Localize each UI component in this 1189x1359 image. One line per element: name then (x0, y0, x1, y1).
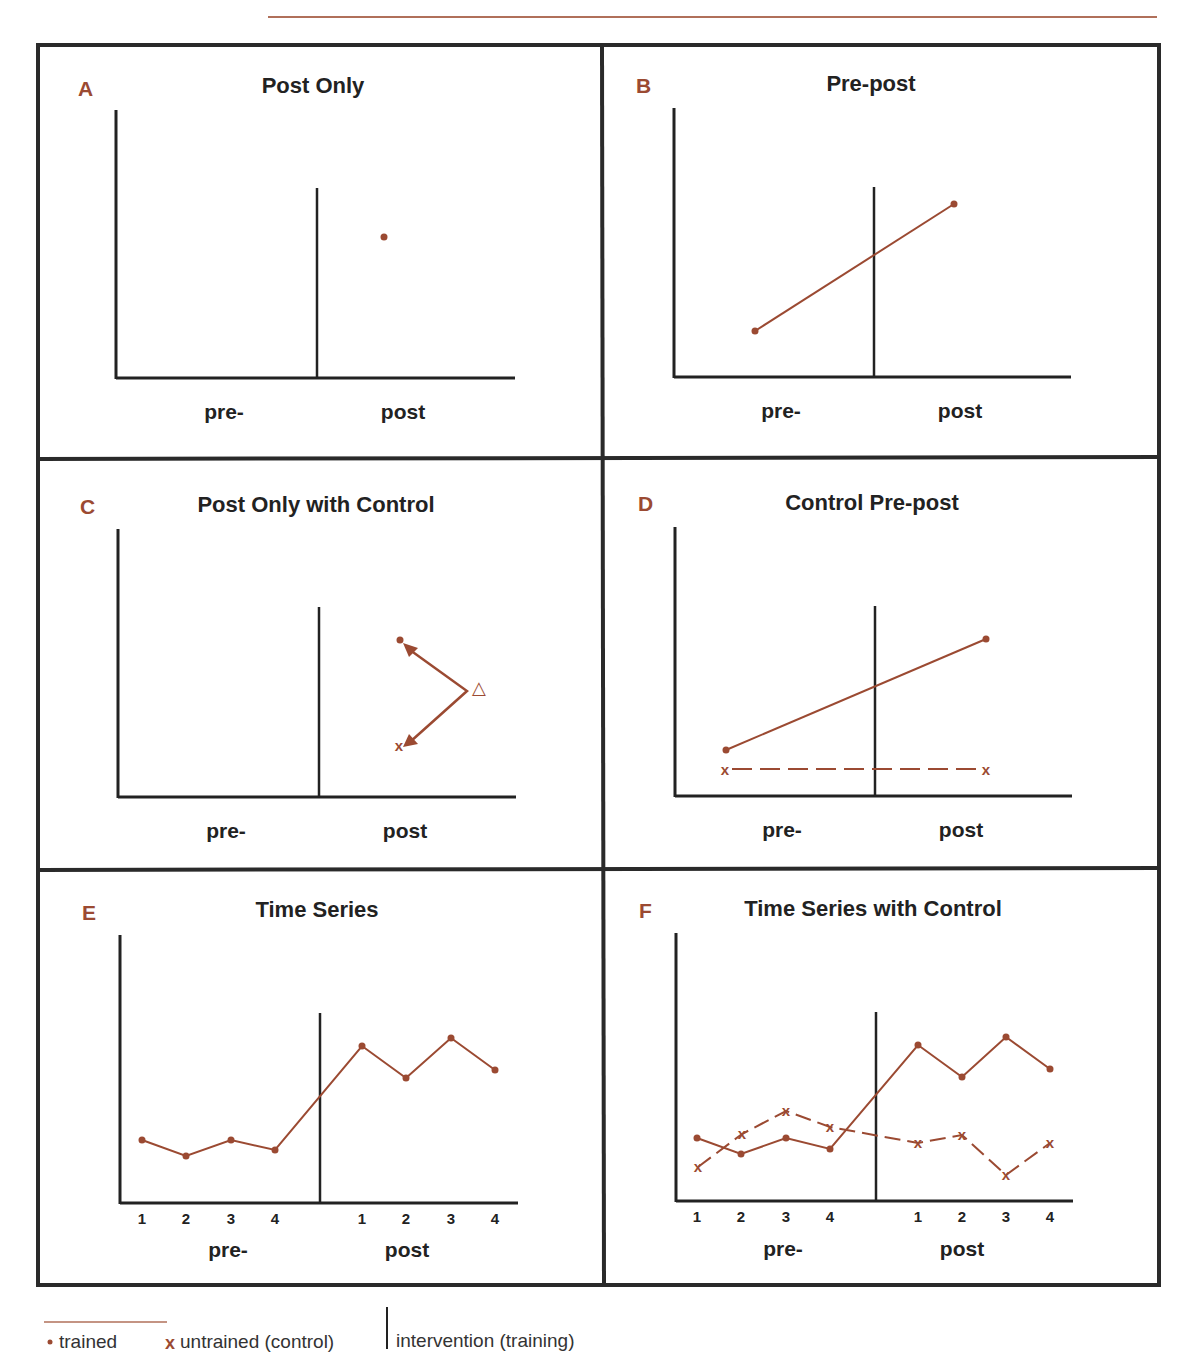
x-label-post: post (385, 1238, 429, 1261)
svg-text:3: 3 (1002, 1208, 1010, 1225)
svg-text:x: x (826, 1118, 835, 1135)
svg-text:1: 1 (358, 1210, 366, 1227)
svg-text:1: 1 (138, 1210, 146, 1227)
panel-title: Post Only (262, 73, 365, 98)
svg-text:4: 4 (491, 1210, 500, 1227)
x-label-pre: pre- (762, 818, 802, 841)
svg-text:2: 2 (402, 1210, 410, 1227)
panel-label: B (636, 74, 651, 97)
panel-c: C Post Only with Control x △ pre- post (80, 492, 516, 842)
trained-point (397, 637, 404, 644)
svg-text:x: x (958, 1126, 967, 1143)
legend-intervention: intervention (training) (396, 1330, 574, 1351)
legend-trained: trained (59, 1331, 117, 1352)
delta-symbol: △ (472, 677, 486, 698)
x-label-pre: pre- (206, 819, 246, 842)
svg-text:x: x (738, 1125, 747, 1142)
trained-series (697, 1037, 1050, 1154)
trained-point-pre (723, 747, 730, 754)
x-label-pre: pre- (763, 1237, 803, 1260)
trained-marker-icon (48, 1340, 53, 1345)
trained-line (726, 639, 986, 750)
svg-text:1: 1 (914, 1208, 922, 1225)
panel-title: Time Series with Control (744, 896, 1002, 921)
panel-a: A Post Only pre- post (78, 73, 515, 423)
legend: trained x untrained (control) interventi… (44, 1307, 574, 1353)
x-label-post: post (381, 400, 425, 423)
panel-b: B Pre-post pre- post (636, 71, 1071, 422)
svg-text:4: 4 (1046, 1208, 1055, 1225)
divider-vertical (602, 45, 604, 1285)
control-marker-pre: x (721, 761, 730, 778)
svg-text:x: x (782, 1102, 791, 1119)
trained-point-post (983, 636, 990, 643)
panel-d: D Control Pre-post x x pre- post (638, 490, 1072, 841)
x-ticks: 1 2 3 4 1 2 3 4 (138, 1210, 500, 1227)
x-label-pre: pre- (204, 400, 244, 423)
svg-text:3: 3 (782, 1208, 790, 1225)
x-ticks: 1 2 3 4 1 2 3 4 (693, 1208, 1055, 1225)
control-markers: xxxx xxxx (694, 1102, 1055, 1183)
panel-title: Control Pre-post (785, 490, 959, 515)
svg-text:x: x (914, 1134, 923, 1151)
trained-series (142, 1038, 495, 1156)
control-series (698, 1111, 1050, 1175)
x-label-post: post (940, 1237, 984, 1260)
x-label-post: post (939, 818, 983, 841)
svg-text:3: 3 (227, 1210, 235, 1227)
panel-f: F Time Series with Control xxxx xxxx 1 2… (639, 896, 1073, 1260)
svg-text:2: 2 (737, 1208, 745, 1225)
svg-text:1: 1 (693, 1208, 701, 1225)
untrained-marker-icon: x (165, 1333, 175, 1353)
panel-label: D (638, 492, 653, 515)
trained-point-pre (752, 328, 759, 335)
evaluation-designs-figure: A Post Only pre- post B Pre-post pre- po… (0, 0, 1189, 1359)
panel-label: E (82, 901, 96, 924)
trained-line (755, 204, 954, 331)
svg-text:2: 2 (182, 1210, 190, 1227)
panel-title: Pre-post (826, 71, 916, 96)
control-marker: x (395, 737, 404, 754)
legend-untrained: untrained (control) (180, 1331, 334, 1352)
panel-label: C (80, 495, 95, 518)
panel-title: Post Only with Control (197, 492, 434, 517)
trained-point-post (951, 201, 958, 208)
divider-row-1 (38, 457, 1159, 459)
control-marker-post: x (982, 761, 991, 778)
panel-e: E Time Series 1 2 3 4 1 2 3 4 pre- post (82, 897, 518, 1261)
panel-label: A (78, 77, 93, 100)
trained-points (694, 1034, 1054, 1158)
divider-row-2 (40, 868, 1159, 870)
figure-frame (38, 45, 1159, 1285)
svg-text:x: x (1002, 1166, 1011, 1183)
difference-arrows (410, 650, 467, 742)
svg-text:3: 3 (447, 1210, 455, 1227)
x-label-post: post (938, 399, 982, 422)
svg-text:x: x (1046, 1134, 1055, 1151)
x-label-pre: pre- (208, 1238, 248, 1261)
panel-title: Time Series (255, 897, 378, 922)
x-label-pre: pre- (761, 399, 801, 422)
svg-text:x: x (694, 1158, 703, 1175)
panel-label: F (639, 899, 652, 922)
svg-text:4: 4 (826, 1208, 835, 1225)
x-label-post: post (383, 819, 427, 842)
svg-text:4: 4 (271, 1210, 280, 1227)
svg-text:2: 2 (958, 1208, 966, 1225)
trained-point (381, 234, 388, 241)
